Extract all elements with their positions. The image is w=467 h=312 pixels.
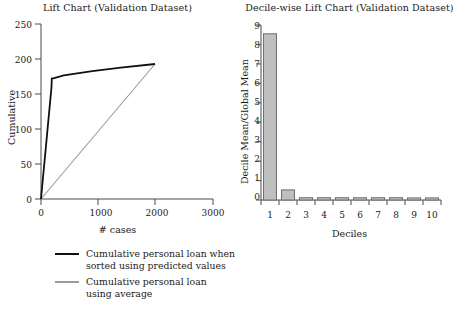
decile-lift-chart-panel: Decile-wise Lift Chart (Validation Datas… — [232, 0, 467, 245]
bar-decile-5 — [336, 198, 349, 200]
lift-x-ticks — [41, 199, 213, 205]
figure-canvas: Lift Chart (Validation Dataset) Cumulati… — [0, 0, 467, 312]
legend-line-swatch-average — [55, 281, 79, 283]
lift-chart-panel: Lift Chart (Validation Dataset) Cumulati… — [0, 0, 235, 245]
bar-decile-2 — [282, 190, 295, 200]
legend-entry-predicted: Cumulative personal loan when sorted usi… — [55, 248, 235, 271]
legend-line-swatch-predicted — [55, 253, 79, 255]
bar-decile-10 — [426, 198, 439, 200]
chart-legend: Cumulative personal loan when sorted usi… — [55, 248, 285, 310]
legend-label-predicted: Cumulative personal loan when sorted usi… — [86, 248, 235, 271]
decile-lift-chart-plot — [232, 0, 467, 245]
legend-entry-average: Cumulative personal loan using average — [55, 276, 207, 299]
bar-decile-3 — [300, 198, 313, 200]
bar-decile-9 — [408, 198, 421, 200]
decile-x-ticks — [261, 200, 441, 205]
bar-decile-6 — [354, 198, 367, 200]
bar-decile-7 — [372, 198, 385, 200]
average-line — [41, 64, 155, 199]
decile-y-ticks — [256, 25, 261, 200]
legend-label-average: Cumulative personal loan using average — [86, 276, 207, 299]
lift-chart-plot — [0, 0, 235, 245]
bar-decile-4 — [318, 198, 331, 200]
decile-bars — [264, 34, 439, 200]
bar-decile-8 — [390, 198, 403, 200]
lift-y-ticks — [35, 24, 41, 199]
bar-decile-1 — [264, 34, 277, 200]
